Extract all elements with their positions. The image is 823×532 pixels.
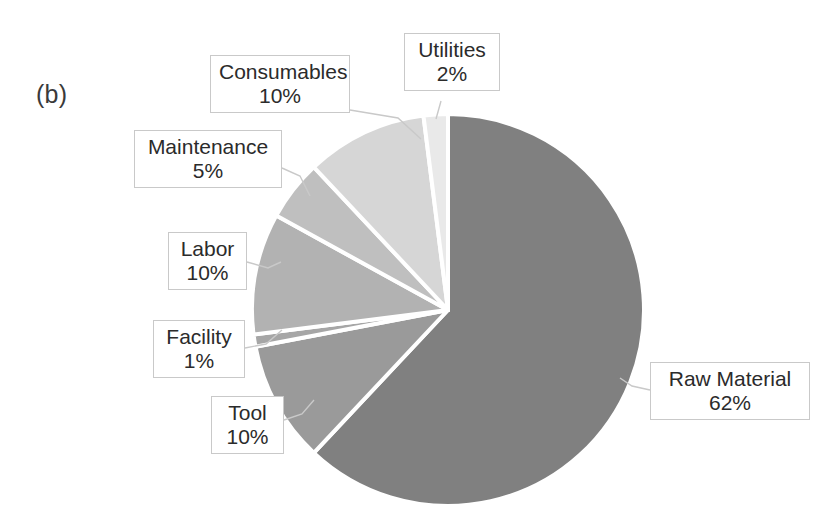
callout-tool-value: 10% <box>220 425 275 449</box>
callout-consumables-value: 10% <box>219 84 341 108</box>
callout-utilities-label: Utilities <box>413 38 491 62</box>
callout-facility: Facility 1% <box>153 320 245 378</box>
callout-consumables: Consumables 10% <box>210 55 350 113</box>
callout-raw-material: Raw Material 62% <box>650 362 810 420</box>
callout-maintenance-label: Maintenance <box>143 135 273 159</box>
callout-labor-label: Labor <box>177 237 238 261</box>
callout-labor-value: 10% <box>177 261 238 285</box>
chart-figure: (b) Consumables 10% Utilities 2% Mainten… <box>0 0 823 532</box>
callout-raw-material-label: Raw Material <box>659 367 801 391</box>
callout-tool: Tool 10% <box>211 396 284 454</box>
callout-maintenance-value: 5% <box>143 159 273 183</box>
callout-utilities: Utilities 2% <box>404 33 500 91</box>
callout-utilities-value: 2% <box>413 62 491 86</box>
callout-tool-label: Tool <box>220 401 275 425</box>
callout-facility-value: 1% <box>162 349 236 373</box>
pie-slice-group <box>252 114 644 506</box>
callout-facility-label: Facility <box>162 325 236 349</box>
callout-raw-material-value: 62% <box>659 391 801 415</box>
callout-maintenance: Maintenance 5% <box>134 130 282 188</box>
callout-labor: Labor 10% <box>168 232 247 290</box>
callout-consumables-label: Consumables <box>219 60 341 84</box>
